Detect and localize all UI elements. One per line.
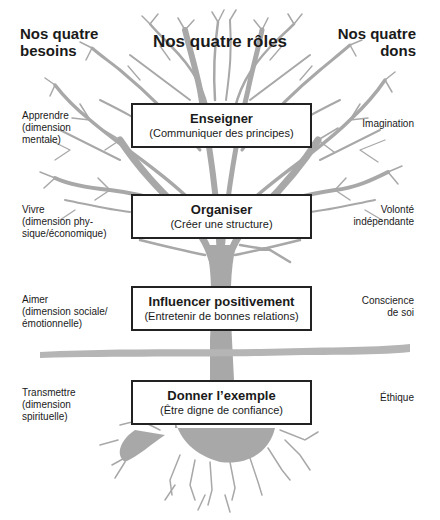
gift-label-ethique: Éthique [314,392,414,404]
tree-illustration [0,0,440,520]
need-label-apprendre: Apprendre (dimension mentale) [22,110,122,146]
gift-title: de soi [314,307,414,319]
gift-label-volonte: Volonté indépendante [314,204,414,228]
role-box-organiser: Organiser (Créer une structure) [131,194,312,239]
need-title: Aimer [22,294,122,306]
need-title: Apprendre [22,110,122,122]
need-title: Transmettre [22,387,122,399]
gift-title: Éthique [314,392,414,404]
role-box-enseigner: Enseigner (Communiquer des principes) [131,103,312,148]
role-subtitle: (Créer une structure) [133,217,310,231]
need-title: Vivre [22,204,122,216]
need-label-transmettre: Transmettre (dimension spirituelle) [22,387,122,423]
tree-roots [120,420,275,463]
gift-title: Conscience [314,295,414,307]
need-dimension: sique/économique) [22,228,122,240]
role-box-influencer: Influencer positivement (Entretenir de b… [131,286,312,331]
gift-label-conscience: Conscience de soi [314,295,414,319]
gifts-heading-line2: dons [316,42,416,59]
need-dimension: (dimension [22,122,122,134]
gifts-heading: Nos quatre dons [316,25,416,59]
gift-title: Imagination [314,118,414,130]
role-subtitle: (Être digne de confiance) [133,403,310,417]
need-dimension: mentale) [22,134,122,146]
role-title: Donner l’exemple [133,388,310,403]
role-title: Influencer positivement [133,294,310,309]
need-dimension: (dimension phy- [22,216,122,228]
gifts-heading-line1: Nos quatre [316,25,416,42]
role-subtitle: (Entretenir de bonnes relations) [133,309,310,323]
role-subtitle: (Communiquer des principes) [133,126,310,140]
gift-title: Volonté [314,204,414,216]
role-title: Enseigner [133,111,310,126]
need-dimension: émotionnelle) [22,318,122,330]
need-dimension: (dimension sociale/ [22,306,122,318]
gift-title: indépendante [314,216,414,228]
need-dimension: spirituelle) [22,411,122,423]
gift-label-imagination: Imagination [314,118,414,130]
need-label-aimer: Aimer (dimension sociale/ émotionnelle) [22,294,122,330]
role-title: Organiser [133,202,310,217]
need-label-vivre: Vivre (dimension phy- sique/économique) [22,204,122,240]
need-dimension: (dimension [22,399,122,411]
role-box-donner-exemple: Donner l’exemple (Être digne de confianc… [131,380,312,425]
